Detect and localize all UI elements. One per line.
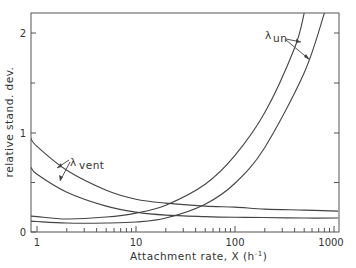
chart: 0 1 2 1 10 100 1000 relative stand. dev.… xyxy=(0,0,356,268)
lambda-un-subscript: un xyxy=(273,32,287,44)
x-axis-ticks xyxy=(37,226,334,232)
xtick-1: 1 xyxy=(34,237,40,248)
curve-vent-upper xyxy=(31,138,338,211)
curve-un-lower xyxy=(31,13,324,223)
lambda-un-annotation: λ un xyxy=(265,29,310,60)
ytick-1: 1 xyxy=(20,128,26,139)
curve-un-upper xyxy=(31,13,304,219)
lambda-vent-subscript: vent xyxy=(79,159,104,171)
arrowhead-icon xyxy=(296,39,301,43)
xtick-1000: 1000 xyxy=(318,237,343,248)
curve-vent-lower xyxy=(31,167,338,218)
lambda-un-symbol: λ xyxy=(265,29,272,41)
y-axis-label: relative stand. dev. xyxy=(3,67,15,178)
ytick-0: 0 xyxy=(20,227,26,238)
xtick-10: 10 xyxy=(130,237,143,248)
y-axis-ticks xyxy=(31,33,339,232)
x-axis-label: Attachment rate, X (h-1) xyxy=(130,250,267,262)
lambda-vent-symbol: λ xyxy=(70,156,77,168)
arrowhead-icon xyxy=(304,54,310,60)
xtick-100: 100 xyxy=(225,237,244,248)
ytick-2: 2 xyxy=(20,28,26,39)
